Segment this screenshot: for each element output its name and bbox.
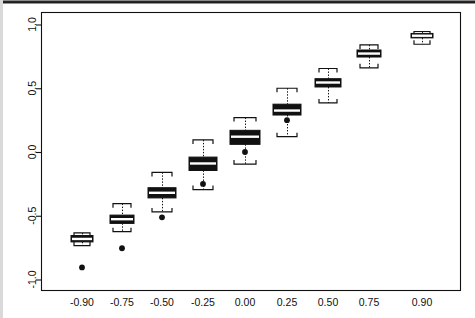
y-axis-tick-label: 1.0: [26, 17, 38, 32]
outlier-point: [159, 214, 165, 220]
x-axis-tick-label: 0.25: [277, 296, 298, 308]
outlier-point: [242, 149, 248, 155]
y-axis-tick-label: 0.0: [26, 145, 38, 160]
x-axis-tick-label: -0.25: [191, 296, 215, 308]
y-axis-tick-label: -1.0: [26, 270, 38, 288]
x-axis-tick-label: -0.50: [150, 296, 174, 308]
plot-canvas: -1.0-0.50.00.51.0-0.90-0.75-0.50-0.250.0…: [0, 0, 475, 318]
box-group: [273, 88, 301, 136]
box-group: [189, 140, 217, 190]
box-group: [230, 118, 260, 165]
box-group: [148, 172, 176, 220]
box-group: [110, 204, 134, 252]
x-axis-tick-label: 0.00: [235, 296, 256, 308]
x-axis-tick-label: 0.90: [412, 296, 433, 308]
outlier-point: [200, 181, 206, 187]
outlier-point: [119, 245, 125, 251]
x-axis-tick-label: -0.90: [70, 296, 94, 308]
box-group: [411, 32, 433, 45]
plot-frame: [42, 13, 461, 291]
x-axis-tick-label: 0.50: [318, 296, 339, 308]
x-axis-tick-label: -0.75: [110, 296, 134, 308]
outlier-point: [284, 117, 290, 123]
y-axis-tick-label: -0.5: [26, 207, 38, 225]
box-group: [357, 45, 381, 68]
box-group: [315, 68, 341, 102]
outlier-point: [79, 264, 85, 270]
whisker-cap-lower: [360, 64, 378, 68]
boxplot-figure: -1.0-0.50.00.51.0-0.90-0.75-0.50-0.250.0…: [0, 0, 475, 318]
box-group: [71, 233, 93, 270]
y-axis-tick-label: 0.5: [26, 81, 38, 96]
x-axis-tick-label: 0.75: [359, 296, 380, 308]
